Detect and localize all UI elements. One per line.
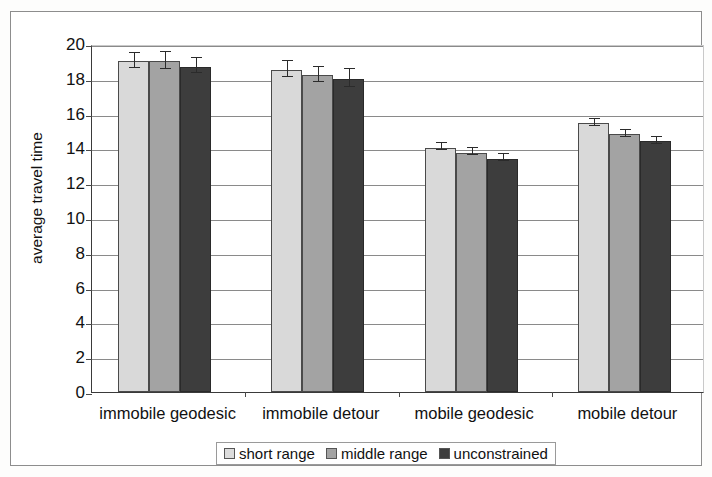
y-axis-tick-label: 2 (15, 349, 85, 366)
error-bar-cap-bottom (589, 125, 600, 126)
plot-area (91, 45, 704, 393)
error-bar-cap-top (160, 51, 171, 52)
legend-label: unconstrained (454, 445, 548, 462)
error-bar-cap-top (313, 66, 324, 67)
error-bar-cap-bottom (467, 154, 478, 155)
bar-short-range[interactable] (271, 70, 302, 392)
x-axis-category-label: immobile detour (244, 404, 397, 423)
error-bar-cap-top (620, 129, 631, 130)
y-axis-tick-label: 14 (15, 140, 85, 157)
bar-middle-range[interactable] (456, 153, 487, 392)
y-axis-tick-label: 8 (15, 245, 85, 262)
y-axis-tick-label: 6 (15, 280, 85, 297)
bar-group (245, 46, 398, 392)
error-bar-cap-top (282, 60, 293, 61)
y-axis-tick-label: 0 (15, 384, 85, 401)
y-axis-tick-label: 16 (15, 106, 85, 123)
y-axis-tick-labels: 02468101214161820 (11, 45, 85, 393)
bar-short-range[interactable] (118, 61, 149, 392)
error-bar-cap-bottom (282, 76, 293, 77)
bar-unconstrained[interactable] (487, 159, 518, 392)
error-bar-cap-bottom (436, 149, 447, 150)
legend-label: short range (239, 445, 315, 462)
bar-short-range[interactable] (578, 123, 609, 392)
bar-group (92, 46, 245, 392)
bar-middle-range[interactable] (609, 134, 640, 392)
bar-unconstrained[interactable] (333, 79, 364, 392)
legend-item[interactable]: short range (224, 445, 315, 462)
legend-label: middle range (341, 445, 428, 462)
error-bar-cap-top (344, 68, 355, 69)
x-axis-category-label: mobile detour (551, 404, 704, 423)
bar-group (552, 46, 705, 392)
x-axis-category-label: immobile geodesic (91, 404, 244, 423)
y-axis-tick-label: 12 (15, 175, 85, 192)
error-bar-cap-bottom (498, 160, 509, 161)
bar-middle-range[interactable] (302, 75, 333, 392)
error-bar-cap-top (436, 142, 447, 143)
bar-unconstrained[interactable] (640, 141, 671, 392)
figure-border: average travel time 02468101214161820 im… (10, 11, 702, 466)
error-bar-cap-bottom (344, 86, 355, 87)
error-bar-cap-top (651, 136, 662, 137)
error-bar-line (165, 52, 166, 69)
chart-legend: short rangemiddle rangeunconstrained (216, 442, 556, 465)
x-axis-tick (399, 392, 400, 397)
y-axis-tick-label: 18 (15, 71, 85, 88)
error-bar-cap-bottom (129, 67, 140, 68)
error-bar-cap-top (498, 153, 509, 154)
error-bar-line (134, 53, 135, 69)
bar-group (399, 46, 552, 392)
error-bar-cap-bottom (620, 136, 631, 137)
legend-item[interactable]: middle range (326, 445, 428, 462)
x-axis-tick (245, 392, 246, 397)
error-bar-cap-bottom (160, 68, 171, 69)
error-bar-cap-top (191, 57, 202, 58)
y-axis-tick-label: 20 (15, 36, 85, 53)
error-bar-line (196, 58, 197, 74)
error-bar-cap-top (467, 147, 478, 148)
x-axis-category-label: mobile geodesic (398, 404, 551, 423)
legend-swatch-icon (439, 448, 450, 459)
legend-swatch-icon (224, 448, 235, 459)
bar-middle-range[interactable] (149, 61, 180, 392)
legend-item[interactable]: unconstrained (439, 445, 548, 462)
x-axis-tick-labels: immobile geodesicimmobile detourmobile g… (91, 404, 704, 428)
legend-swatch-icon (326, 448, 337, 459)
y-axis-tick-label: 4 (15, 314, 85, 331)
error-bar-cap-top (589, 118, 600, 119)
bar-short-range[interactable] (425, 148, 456, 392)
chart-figure: average travel time 02468101214161820 im… (0, 0, 712, 477)
error-bar-cap-bottom (651, 143, 662, 144)
error-bar-line (349, 69, 350, 86)
x-axis-tick (552, 392, 553, 397)
error-bar-cap-top (129, 52, 140, 53)
bar-unconstrained[interactable] (180, 67, 211, 392)
error-bar-cap-bottom (191, 72, 202, 73)
y-axis-tick-label: 10 (15, 210, 85, 227)
error-bar-line (318, 67, 319, 83)
error-bar-cap-bottom (313, 81, 324, 82)
error-bar-line (287, 61, 288, 77)
y-axis-tick (86, 394, 92, 395)
